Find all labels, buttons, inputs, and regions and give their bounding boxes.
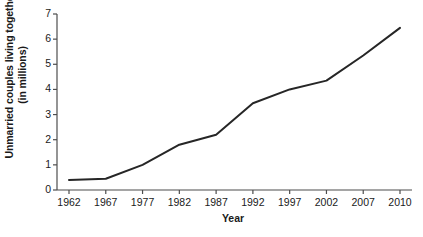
y-axis-tick-label: 7: [33, 8, 51, 19]
y-axis-tick-label: 6: [33, 33, 51, 44]
x-axis-tick-label: 1987: [196, 197, 236, 208]
y-axis-title-line-1: Unmarried couples living together: [3, 0, 16, 170]
x-axis-tick-label: 1997: [270, 197, 310, 208]
data-series-line: [69, 28, 400, 180]
y-axis-tick-label: 2: [33, 134, 51, 145]
line-chart: Unmarried couples living together (in mi…: [0, 0, 423, 237]
axes: [57, 14, 412, 190]
x-axis-tick-label: 1962: [49, 197, 89, 208]
y-axis-tick-label: 4: [33, 83, 51, 94]
y-axis-tick-label: 5: [33, 58, 51, 69]
x-axis-tick-label: 1977: [123, 197, 163, 208]
x-axis-ticks: [69, 190, 400, 194]
x-axis-tick-label: 1992: [233, 197, 273, 208]
y-axis-tick-label: 0: [33, 184, 51, 195]
x-axis-tick-label: 1967: [86, 197, 126, 208]
x-axis-title: Year: [55, 212, 411, 224]
x-axis-tick-label: 2010: [380, 197, 420, 208]
x-axis-tick-label: 2007: [343, 197, 383, 208]
x-axis-tick-label: 1982: [159, 197, 199, 208]
y-axis-tick-label: 3: [33, 109, 51, 120]
y-axis-tick-label: 1: [33, 159, 51, 170]
y-axis-title-line-2: (in millions): [16, 0, 29, 170]
x-axis-tick-label: 2002: [306, 197, 346, 208]
